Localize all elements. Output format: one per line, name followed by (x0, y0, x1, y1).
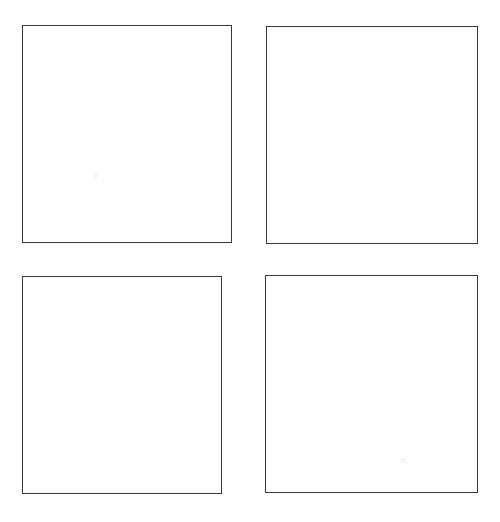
faint-speck-icon (93, 172, 98, 179)
panel-bottom-left-content (23, 277, 221, 493)
faint-speck-icon (400, 458, 406, 463)
panel-top-right[interactable] (266, 26, 478, 244)
panel-bottom-left[interactable] (22, 276, 222, 494)
panel-grid-canvas (0, 0, 500, 522)
panel-bottom-right[interactable] (265, 275, 478, 493)
panel-top-right-content (267, 27, 477, 243)
panel-top-left-content (23, 26, 231, 242)
panel-top-left[interactable] (22, 25, 232, 243)
panel-bottom-right-content (266, 276, 477, 492)
